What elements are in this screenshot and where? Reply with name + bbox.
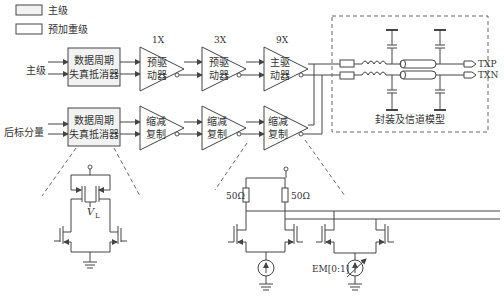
main-dcd-block <box>68 48 120 86</box>
driver-detail-circuit <box>228 167 500 290</box>
legend-swatch-main <box>16 5 42 15</box>
output-txn: TXN <box>478 70 498 80</box>
gain-1x: 1X <box>152 35 165 45</box>
main-dcd-line2: 失真抵消器 <box>69 68 119 80</box>
scaled-replica-3 <box>264 106 308 150</box>
block-diagram: 主级 预加重级 主级 数据周期 失真抵消器 1X 预驱 动器 3X 预驱 动器 … <box>0 0 504 296</box>
main-dcd-line1: 数据周期 <box>74 54 114 66</box>
predriver-3x <box>202 47 246 91</box>
scaled-replica-2 <box>202 106 246 150</box>
stage3-line1: 主驱 <box>270 57 290 68</box>
main-input-label: 主级 <box>26 65 46 76</box>
stage1-line1: 预驱 <box>147 57 167 68</box>
vl-subscript: L <box>95 212 100 220</box>
stage2-line2: 动器 <box>209 70 229 81</box>
resistor-label-left: 50Ω <box>226 191 245 201</box>
gain-3x: 3X <box>214 35 227 45</box>
channel-label: 封装及信道模型 <box>375 113 445 125</box>
output-txp: TXP <box>478 59 496 69</box>
legend-label-main: 主级 <box>48 5 68 16</box>
replica1-line2: 复制 <box>146 128 166 140</box>
stage3-line2: 动器 <box>270 70 290 81</box>
predriver-1x <box>140 47 184 91</box>
gain-9x: 9X <box>276 35 289 45</box>
main-path: 主级 数据周期 失真抵消器 1X 预驱 动器 3X 预驱 动器 9X 主驱 动器 <box>26 35 308 91</box>
post-dcd-line2: 失真抵消器 <box>69 128 119 140</box>
replica2-line2: 复制 <box>207 128 227 140</box>
resistor-label-right: 50Ω <box>291 191 310 201</box>
channel-network <box>340 30 476 110</box>
stage2-line1: 预驱 <box>209 57 229 68</box>
legend-swatch-preemphasis <box>16 24 42 34</box>
replica2-line1: 缩减 <box>207 115 227 127</box>
stage1-line2: 动器 <box>147 70 167 81</box>
em-current-source-label: EM[0:1] <box>312 264 349 274</box>
replica3-line2: 复制 <box>268 128 288 140</box>
post-dcd-line1: 数据周期 <box>74 114 114 126</box>
legend: 主级 预加重级 <box>16 5 88 35</box>
replica3-line1: 缩减 <box>268 115 288 127</box>
post-dcd-block <box>68 108 120 146</box>
legend-label-preemphasis: 预加重级 <box>48 23 88 35</box>
main-driver-9x <box>264 47 308 91</box>
replica1-line1: 缩减 <box>146 115 166 127</box>
post-path: 后标分量 数据周期 失真抵消器 缩减 复制 缩减 复制 缩减 复制 <box>4 106 308 150</box>
post-input-label: 后标分量 <box>4 127 44 138</box>
scaled-replica-1 <box>140 106 184 150</box>
